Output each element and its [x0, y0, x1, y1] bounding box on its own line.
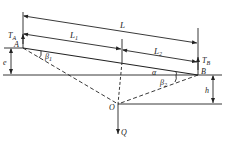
- label-Q: Q: [121, 128, 127, 137]
- label-O: O: [109, 103, 115, 112]
- label-A: A: [13, 40, 19, 49]
- load-point-dashed: [118, 62, 122, 104]
- label-L: L: [119, 20, 125, 30]
- label-beta2: β2: [159, 78, 167, 88]
- angle-beta2-arc: [175, 75, 176, 82]
- cable-diagram: L L1 L2 TA A TB B e h O Q β1 α β2: [0, 0, 233, 144]
- dimension-L: [24, 16, 197, 43]
- line-A-O: [23, 48, 118, 104]
- label-h: h: [205, 86, 209, 95]
- label-e: e: [3, 58, 7, 67]
- label-beta1: β1: [44, 52, 52, 62]
- label-alpha: α: [152, 68, 157, 77]
- angle-beta1-arc: [39, 51, 41, 58]
- label-L1: L1: [69, 30, 78, 41]
- label-B: B: [201, 67, 206, 76]
- angle-alpha-arc: [176, 72, 177, 75]
- label-TB: TB: [202, 56, 210, 66]
- line-B-O: [118, 75, 198, 104]
- label-L2: L2: [153, 46, 162, 57]
